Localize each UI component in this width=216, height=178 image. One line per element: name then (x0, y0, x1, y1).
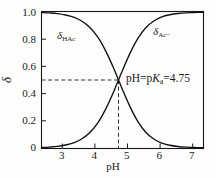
pka-annotation: pH=pKa=4.75 (126, 72, 190, 86)
delta-subscript-acetate: Ac− (158, 31, 170, 39)
curve-label-delta-acetate: δAc− (153, 25, 170, 39)
annotation-italic-k: K (152, 72, 160, 84)
x-tick-label-6: 6 (157, 149, 163, 161)
delta-subscript-hac: HAc (62, 35, 75, 43)
distribution-diagram-figure: 1.0 0.8 0.6 0.4 0.2 0 3 4 5 6 7 δ pH δHA… (0, 0, 216, 178)
y-tick-label-0.4: 0.4 (6, 87, 36, 99)
y-axis-title: δ (0, 77, 15, 83)
x-axis-title: pH (106, 160, 119, 172)
x-tick-label-4: 4 (92, 149, 98, 161)
y-tick-label-0.8: 0.8 (6, 33, 36, 45)
x-tick-label-7: 7 (189, 149, 195, 161)
x-tick-label-5: 5 (124, 149, 130, 161)
y-tick-label-0.6: 0.6 (6, 60, 36, 72)
y-tick-label-1.0: 1.0 (6, 6, 36, 18)
curve-label-delta-hac: δHAc (57, 29, 75, 43)
annotation-suffix: =4.75 (163, 72, 190, 84)
y-tick-label-0.2: 0.2 (6, 114, 36, 126)
y-tick-label-0: 0 (6, 141, 36, 153)
x-tick-label-3: 3 (59, 149, 65, 161)
annotation-prefix: pH=p (126, 72, 152, 84)
